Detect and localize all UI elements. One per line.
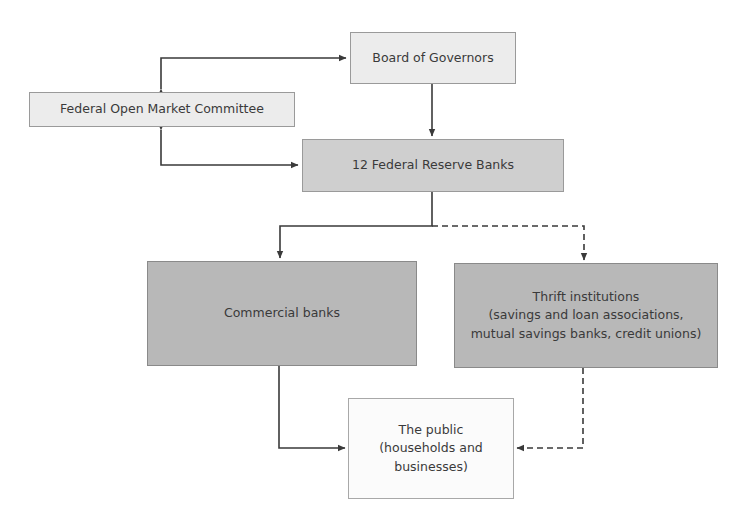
edge-fomc-board <box>161 58 346 89</box>
board-of-governors-label: Board of Governors <box>372 49 493 67</box>
public-node: The public (households and businesses) <box>348 398 514 499</box>
edge-commercial-public <box>279 366 345 448</box>
fomc-node: Federal Open Market Committee <box>29 92 295 127</box>
edge-frb-thrift <box>432 226 584 260</box>
thrift-detail-2: mutual savings banks, credit unions) <box>471 325 702 343</box>
public-detail-1: (households and <box>379 439 483 457</box>
thrift-title: Thrift institutions <box>533 288 640 306</box>
federal-reserve-banks-node: 12 Federal Reserve Banks <box>302 139 564 192</box>
edge-frb-commercial <box>280 192 432 258</box>
board-of-governors-node: Board of Governors <box>350 32 516 84</box>
commercial-banks-node: Commercial banks <box>147 261 417 366</box>
edge-thrift-public <box>517 368 583 448</box>
edge-fomc-frb <box>161 130 298 165</box>
public-title: The public <box>399 421 464 439</box>
federal-reserve-banks-label: 12 Federal Reserve Banks <box>352 156 514 174</box>
fomc-label: Federal Open Market Committee <box>60 100 264 118</box>
commercial-banks-label: Commercial banks <box>224 304 340 322</box>
thrift-detail-1: (savings and loan associations, <box>488 306 683 324</box>
public-detail-2: businesses) <box>394 458 468 476</box>
thrift-institutions-node: Thrift institutions (savings and loan as… <box>454 263 718 368</box>
